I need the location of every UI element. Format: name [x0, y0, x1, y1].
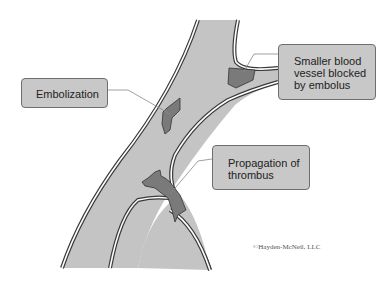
label-embolization: Embolization [21, 78, 108, 108]
vessel-diagram [0, 0, 390, 283]
label-propagation-text: Propagation of thrombus [228, 157, 300, 181]
copyright-notice: ©Hayden-McNeil, LLC [253, 243, 321, 251]
label-embolization-text: Embolization [36, 88, 99, 100]
label-smaller-vessel: Smaller blood vessel blocked by embolus [278, 44, 376, 100]
label-propagation: Propagation of thrombus [212, 145, 310, 190]
leader-propagation [198, 159, 212, 161]
label-smaller-vessel-text: Smaller blood vessel blocked by embolus [294, 55, 366, 91]
